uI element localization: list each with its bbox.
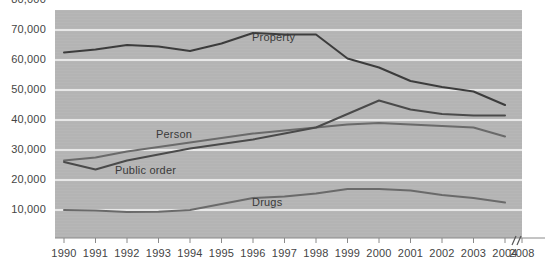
series-label-drugs: Drugs [252,196,282,208]
series-label-property: Property [252,31,295,43]
series-label-public-order: Public order [115,164,176,176]
line-chart: 10,00020,00030,00040,00050,00060,00070,0… [0,0,545,268]
series-label-person: Person [156,128,192,140]
